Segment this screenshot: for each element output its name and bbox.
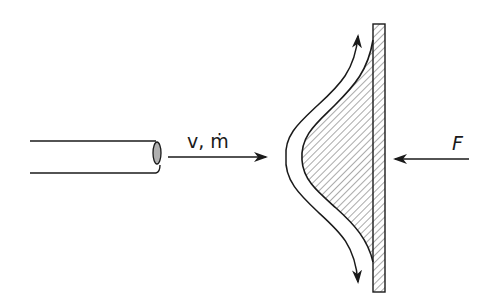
- force-label: F: [452, 132, 464, 154]
- pipe: [30, 141, 161, 173]
- plate: [373, 24, 385, 292]
- pipe-end-ellipse: [153, 142, 161, 164]
- jet-deflector-diagram: v, ṁ F: [0, 0, 493, 303]
- velocity-mass-flow-label: v, ṁ: [187, 130, 229, 152]
- curved-deflector: [302, 40, 373, 262]
